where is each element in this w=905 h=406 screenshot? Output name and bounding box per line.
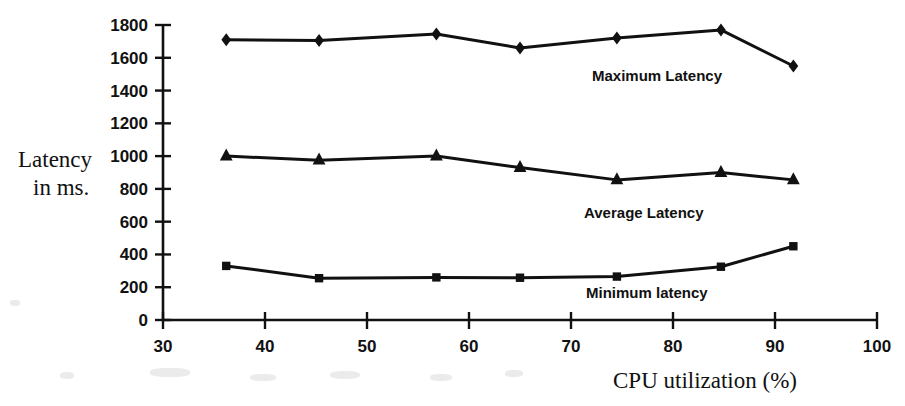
marker-maximum-latency-1 (314, 34, 324, 47)
marker-maximum-latency-3 (515, 41, 525, 54)
series-markers-group (220, 23, 800, 282)
marker-minimum-latency-6 (789, 242, 797, 250)
y-axis-tick-labels: 020040060080010001200140016001800 (110, 16, 148, 330)
scan-artifact (430, 374, 452, 381)
marker-average-latency-5 (715, 165, 728, 177)
x-tick-label: 90 (766, 337, 785, 356)
marker-maximum-latency-4 (612, 32, 622, 45)
marker-maximum-latency-5 (716, 23, 726, 36)
marker-minimum-latency-3 (516, 274, 524, 282)
x-axis-tick-labels: 30405060708090100 (154, 337, 892, 356)
series-line-maximum-latency (226, 30, 793, 66)
marker-average-latency-2 (430, 149, 443, 161)
marker-minimum-latency-2 (432, 273, 440, 281)
series-line-minimum-latency (226, 246, 793, 278)
x-tick-label: 40 (256, 337, 275, 356)
y-tick-label: 1200 (110, 114, 148, 133)
y-tick-label: 0 (139, 311, 148, 330)
y-tick-label: 800 (120, 180, 148, 199)
scan-artifact (250, 374, 276, 381)
x-tick-label: 30 (154, 337, 173, 356)
scan-artifact (505, 370, 523, 377)
y-tick-label: 400 (120, 245, 148, 264)
series-annotation-maximum-latency: Maximum Latency (592, 67, 723, 84)
marker-maximum-latency-6 (788, 59, 798, 72)
y-tick-label: 1000 (110, 147, 148, 166)
x-tick-label: 70 (562, 337, 581, 356)
series-annotation-average-latency: Average Latency (584, 204, 704, 221)
series-line-average-latency (226, 156, 793, 180)
marker-minimum-latency-1 (315, 274, 323, 282)
scan-artifact (330, 371, 360, 379)
x-tick-label: 80 (664, 337, 683, 356)
x-tick-label: 100 (863, 337, 891, 356)
x-tick-label: 60 (460, 337, 479, 356)
scan-artifact (60, 372, 74, 379)
y-tick-label: 1400 (110, 82, 148, 101)
latency-vs-cpu-utilization-chart: 020040060080010001200140016001800 304050… (0, 0, 905, 406)
marker-average-latency-0 (220, 149, 233, 161)
scan-artifact (10, 300, 20, 306)
y-tick-label: 1800 (110, 16, 148, 35)
marker-maximum-latency-0 (221, 33, 231, 46)
scan-artifact (150, 368, 190, 377)
x-axis-title: CPU utilization (%) (613, 368, 797, 393)
marker-minimum-latency-4 (613, 272, 621, 280)
marker-minimum-latency-0 (222, 262, 230, 270)
series-annotation-minimum-latency: Minimum latency (586, 284, 708, 301)
chart-canvas: 020040060080010001200140016001800 304050… (0, 0, 905, 406)
x-tick-label: 50 (358, 337, 377, 356)
marker-maximum-latency-2 (431, 28, 441, 41)
marker-minimum-latency-5 (717, 263, 725, 271)
y-tick-label: 1600 (110, 49, 148, 68)
y-tick-label: 200 (120, 278, 148, 297)
y-axis-title-line1: Latency (18, 147, 93, 172)
y-axis-title-line2: in ms. (33, 175, 89, 200)
y-tick-label: 600 (120, 213, 148, 232)
